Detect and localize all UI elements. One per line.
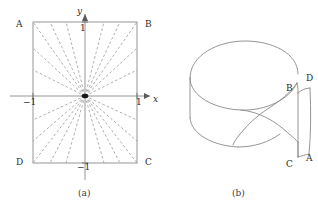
label-corner-a: A xyxy=(16,20,23,29)
label-x-axis: x xyxy=(153,95,158,104)
label-point-a: A xyxy=(306,154,313,163)
figure-root: A B C D 1 −1 −1 1 x y (a) xyxy=(0,0,318,208)
caption-panel-a: (a) xyxy=(78,188,90,198)
label-x-tick-negative-one: −1 xyxy=(23,98,36,107)
band-body-to-seam-top xyxy=(297,83,298,93)
x-axis-arrowhead xyxy=(144,93,150,99)
label-y-tick-negative-one: −1 xyxy=(77,163,90,172)
band-seam-top xyxy=(298,88,310,93)
label-point-c: C xyxy=(286,160,293,169)
caption-panel-b: (b) xyxy=(232,188,245,198)
band-top-rim-front xyxy=(190,78,297,110)
band-lower-front-edge xyxy=(238,134,280,147)
label-corner-c: C xyxy=(145,158,152,167)
origin-dot-marker xyxy=(82,94,89,98)
label-x-tick-positive-one: 1 xyxy=(136,98,142,107)
band-seam-edge-da xyxy=(309,88,311,154)
band-twist-upper-strand xyxy=(241,110,298,142)
y-axis-arrowhead xyxy=(82,14,88,21)
label-y-tick-positive-one: 1 xyxy=(80,24,86,33)
panel-a-square-diagram: A B C D 1 −1 −1 1 x y (a) xyxy=(0,0,170,208)
band-top-rim xyxy=(190,41,298,78)
label-point-b: B xyxy=(286,84,293,93)
label-corner-d: D xyxy=(16,158,23,167)
band-bottom-left-curve xyxy=(190,118,238,147)
label-corner-b: B xyxy=(145,20,152,29)
label-point-d: D xyxy=(306,74,313,83)
panel-b-moebius-band: B D C A (b) xyxy=(170,0,318,208)
panel-b-canvas xyxy=(170,0,318,208)
band-twist-inner-fold xyxy=(233,134,240,145)
label-y-axis: y xyxy=(77,7,82,16)
